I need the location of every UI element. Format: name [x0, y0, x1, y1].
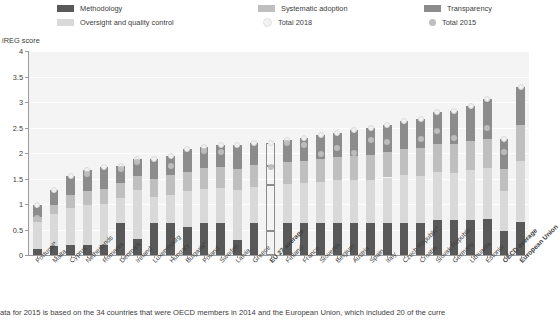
bar-segment-systematic — [433, 144, 442, 172]
y-axis-tick-label: 3 — [19, 98, 23, 107]
marker-total-2015 — [201, 148, 207, 154]
bar-poland[interactable] — [200, 147, 209, 255]
bar-segment-systematic — [83, 191, 92, 205]
bar-segment-oversight — [283, 184, 292, 224]
bar-segment-oversight — [233, 190, 242, 240]
bar-slovenia[interactable] — [316, 135, 325, 255]
bar-sweden[interactable] — [216, 145, 225, 255]
bar-segment-transparency — [100, 167, 109, 188]
bar-segment-transparency — [466, 106, 475, 141]
bar-segment-transparency — [250, 143, 259, 165]
marker-total-2018 — [468, 103, 474, 109]
bar-segment-transparency — [516, 87, 525, 125]
bar-cyprus[interactable] — [66, 176, 75, 255]
y-axis-tick-mark — [25, 77, 29, 78]
marker-total-2015 — [501, 149, 507, 155]
bar-segment-oversight — [216, 188, 225, 224]
bar-belgium[interactable] — [333, 133, 342, 255]
legend-label-methodology: Methodology — [80, 4, 122, 13]
plot-area — [29, 51, 529, 255]
bar-luxembourg[interactable] — [150, 159, 159, 255]
marker-total-2018 — [334, 130, 340, 136]
marker-total-2018 — [251, 140, 257, 146]
bar-segment-transparency — [400, 121, 409, 149]
bar-segment-systematic — [66, 195, 75, 208]
marker-total-2018 — [151, 156, 157, 162]
y-axis-tick-label: 2 — [19, 149, 23, 158]
legend-item-total-2015[interactable]: Total 2015 — [424, 16, 492, 28]
marker-total-2015 — [218, 149, 224, 155]
legend-item-methodology[interactable]: Methodology — [57, 2, 174, 14]
y-axis-title: iREG score — [2, 36, 40, 45]
legend-item-transparency[interactable]: Transparency — [424, 2, 492, 14]
bar-segment-systematic — [383, 152, 392, 178]
y-axis-tick-mark — [25, 179, 29, 180]
bar-austria[interactable] — [350, 130, 359, 255]
y-axis-tick-label: 0.5 — [13, 225, 23, 234]
marker-total-2015 — [368, 137, 374, 143]
bar-spain[interactable] — [366, 128, 375, 256]
bar-bulgaria[interactable] — [183, 149, 192, 255]
bar-france[interactable] — [300, 138, 309, 255]
bar-segment-transparency — [150, 159, 159, 179]
legend-dot-total-2015 — [429, 19, 436, 26]
legend-label-total-2015: Total 2015 — [442, 18, 476, 27]
bar-segment-oversight — [466, 170, 475, 220]
bar-segment-systematic — [516, 125, 525, 161]
bar-european-union[interactable] — [516, 87, 525, 255]
bar-segment-systematic — [183, 172, 192, 191]
marker-total-2015 — [434, 128, 440, 134]
bar-netherlands[interactable] — [83, 170, 92, 255]
bar-segment-systematic — [400, 149, 409, 175]
bar-greece[interactable] — [250, 143, 259, 255]
y-axis-tick-mark — [25, 230, 29, 231]
bar-segment-systematic — [333, 157, 342, 180]
bar-segment-transparency — [183, 149, 192, 172]
legend-dot-total-2018 — [263, 18, 272, 27]
marker-total-2018 — [418, 116, 424, 122]
bar-segment-oversight — [383, 178, 392, 224]
bar-segment-oversight — [150, 197, 159, 224]
legend-column-2: Systematic adoption Total 2018 — [258, 2, 348, 30]
bar-segment-systematic — [200, 168, 209, 188]
bar-segment-methodology — [400, 223, 409, 255]
bar-segment-oversight — [166, 195, 175, 223]
y-axis-tick-mark — [25, 204, 29, 205]
y-axis-tick-mark — [25, 51, 29, 52]
marker-total-2018 — [451, 108, 457, 114]
legend-item-total-2018[interactable]: Total 2018 — [258, 16, 348, 28]
bar-segment-oversight — [200, 189, 209, 224]
bar-portugal[interactable] — [33, 205, 42, 255]
legend-swatch-systematic — [258, 5, 275, 12]
y-axis-tick-label: 1.5 — [13, 174, 23, 183]
bar-segment-transparency — [416, 119, 425, 149]
x-axis-labels: Portugal*MaltaCyprusNetherlandsRomaniaDe… — [0, 255, 534, 307]
bar-segment-transparency — [266, 143, 275, 166]
bar-segment-oversight — [250, 187, 259, 224]
bar-oecd-average[interactable] — [500, 139, 509, 255]
marker-total-2018 — [168, 153, 174, 159]
bar-segment-oversight — [333, 180, 342, 223]
marker-total-2018 — [301, 135, 307, 141]
bar-czech-republic[interactable] — [400, 121, 409, 255]
marker-total-2015 — [318, 151, 324, 157]
bar-segment-systematic — [100, 189, 109, 204]
legend-item-oversight[interactable]: Oversight and quality control — [57, 16, 174, 28]
bar-segment-oversight — [133, 190, 142, 238]
bar-estonia[interactable] — [483, 99, 492, 255]
bar-segment-systematic — [483, 139, 492, 169]
legend-label-systematic: Systematic adoption — [281, 4, 348, 13]
legend-item-systematic[interactable]: Systematic adoption — [258, 2, 348, 14]
chart-footnote: ata for 2015 is based on the 34 countrie… — [0, 308, 534, 317]
bar-segment-oversight — [433, 172, 442, 220]
legend-swatch-methodology — [57, 5, 74, 12]
bar-segment-oversight — [350, 180, 359, 223]
bar-eu-27-average[interactable] — [266, 143, 275, 255]
bar-germany[interactable] — [450, 111, 459, 255]
bar-italy[interactable] — [383, 125, 392, 255]
bar-segment-systematic — [116, 183, 125, 198]
legend-swatch-transparency — [424, 5, 441, 12]
bar-latvia[interactable] — [233, 145, 242, 255]
marker-total-2018 — [68, 173, 74, 179]
